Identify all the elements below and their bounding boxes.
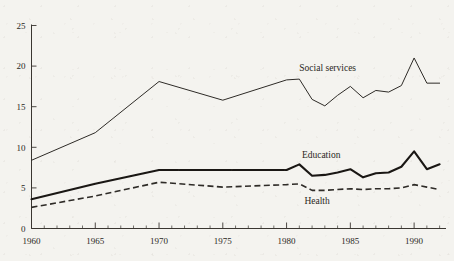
y-tick-label: 0 (21, 224, 26, 234)
series-line-education (32, 151, 440, 199)
series-line-health (32, 182, 440, 207)
y-tick-label: 10 (17, 143, 27, 153)
x-tick-label: 1975 (214, 236, 233, 246)
x-tick-label: 1965 (86, 236, 105, 246)
series-label-health: Health (304, 196, 330, 206)
y-tick-label: 15 (17, 102, 27, 112)
y-tick-label: 20 (17, 61, 27, 71)
y-tick-label: 25 (17, 21, 27, 31)
x-tick-label: 1990 (405, 236, 424, 246)
x-tick-label: 1970 (150, 236, 169, 246)
x-tick-label: 1980 (278, 236, 297, 246)
series-line-social-services (32, 58, 440, 160)
series-label-social-services: Social services (299, 63, 356, 73)
y-tick-label: 5 (21, 183, 26, 193)
chart-canvas: 05101520251960196519701975198019851990So… (0, 0, 454, 261)
x-tick-label: 1960 (23, 236, 42, 246)
x-tick-label: 1985 (341, 236, 360, 246)
line-chart: 05101520251960196519701975198019851990So… (0, 0, 454, 261)
series-label-education: Education (302, 150, 341, 160)
